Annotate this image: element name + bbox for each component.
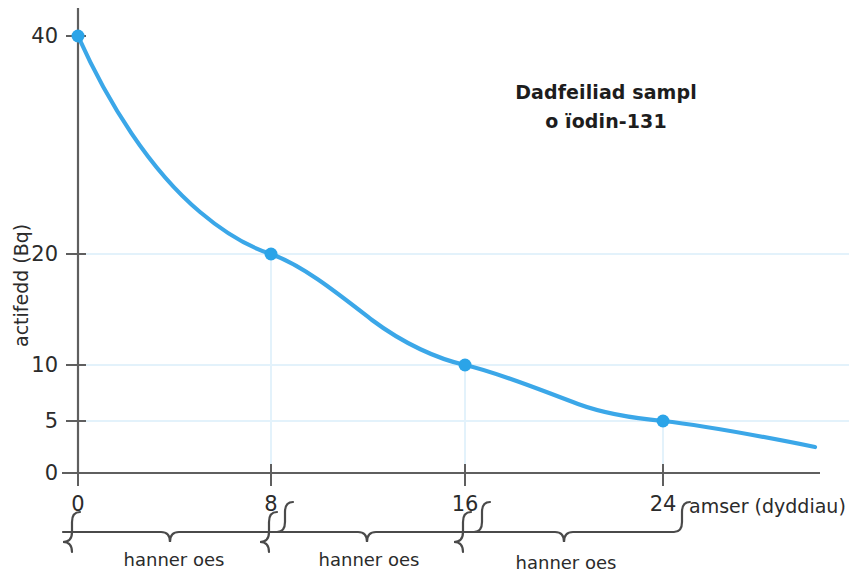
y-tick-marks [66,36,86,473]
chart-title-line2: o ïodin-131 [545,110,667,132]
data-point-0 [72,30,85,43]
half-life-label-2: hanner oes [319,549,420,570]
x-tick-label-0: 0 [58,492,98,516]
decay-curve [78,36,815,447]
x-tick-marks [78,464,663,486]
decay-curve-plot [0,0,849,576]
chart-title-line1: Dadfeiliad sampl [515,81,697,103]
y-tick-label-0: 0 [6,461,58,485]
x-tick-label-16: 16 [445,492,485,516]
chart-canvas: Dadfeiliad sampl o ïodin-131 40 20 10 5 … [0,0,849,576]
data-point-3 [657,415,670,428]
half-life-label-3: hanner oes [516,552,617,573]
x-tick-label-24: 24 [643,492,683,516]
y-tick-label-40: 40 [6,24,58,48]
half-life-brackets [63,502,690,552]
y-tick-label-10: 10 [6,353,58,377]
y-axis-title: actifedd (Bq) [10,224,32,347]
half-life-label-1: hanner oes [124,549,225,570]
data-point-2 [459,359,472,372]
y-tick-label-5: 5 [6,409,58,433]
data-point-1 [265,248,278,261]
horizontal-gridlines [78,254,849,421]
x-tick-label-8: 8 [251,492,291,516]
x-axis-title: amser (dyddiau) [689,495,846,517]
